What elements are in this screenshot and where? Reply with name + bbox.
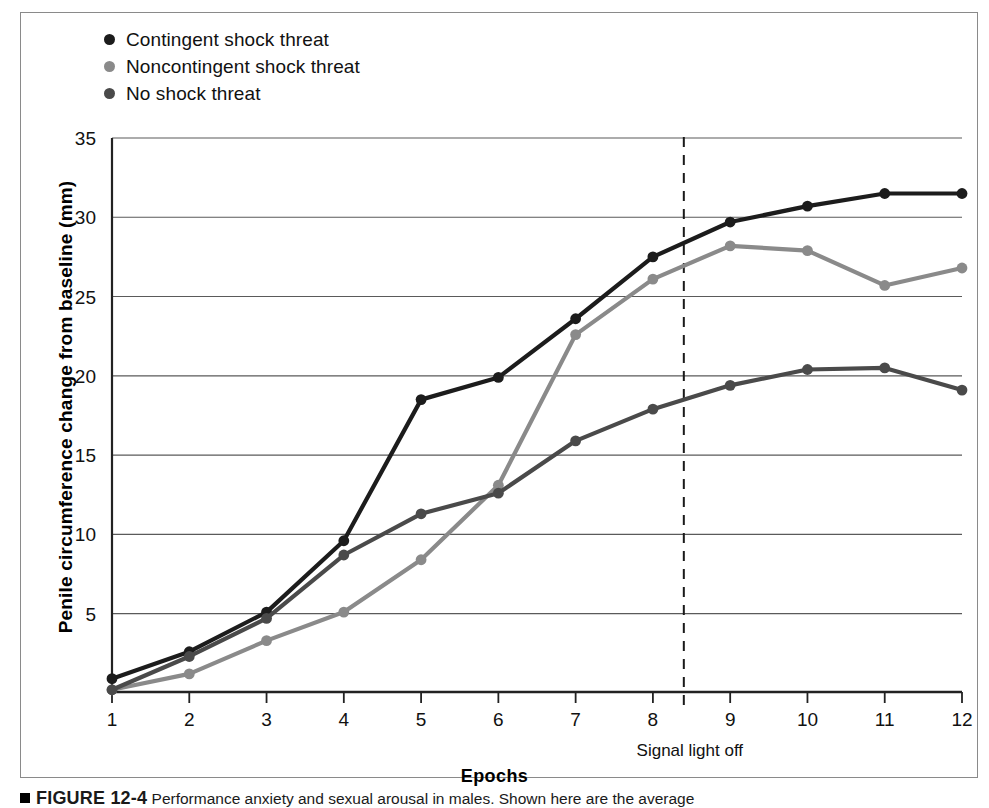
x-tick-label: 7 bbox=[570, 709, 581, 730]
data-point bbox=[802, 364, 813, 375]
data-point bbox=[261, 613, 272, 624]
data-point bbox=[725, 380, 736, 391]
data-series-layer bbox=[107, 188, 968, 695]
data-point bbox=[338, 550, 349, 561]
y-tick-label: 30 bbox=[75, 207, 96, 228]
data-point bbox=[338, 535, 349, 546]
data-point bbox=[416, 508, 427, 519]
caption-body-text: Performance anxiety and sexual arousal i… bbox=[152, 790, 695, 807]
annotation-layer: Signal light off bbox=[637, 137, 744, 760]
data-point bbox=[648, 404, 659, 415]
data-point bbox=[570, 435, 581, 446]
x-tick-label: 4 bbox=[339, 709, 350, 730]
data-point bbox=[570, 313, 581, 324]
x-tick-label: 6 bbox=[493, 709, 504, 730]
x-tick-label: 10 bbox=[797, 709, 818, 730]
data-point bbox=[957, 188, 968, 199]
data-point bbox=[493, 372, 504, 383]
data-point bbox=[879, 363, 890, 374]
data-point bbox=[802, 245, 813, 256]
caption-figure-number: FIGURE 12-4 bbox=[36, 789, 147, 808]
data-point bbox=[493, 488, 504, 499]
annotation-label: Signal light off bbox=[637, 741, 744, 760]
data-point bbox=[184, 669, 195, 680]
x-axis-ticks: 123456789101112 bbox=[107, 692, 973, 730]
data-point bbox=[648, 252, 659, 263]
plot-area: 5101520253035 123456789101112 Signal lig… bbox=[0, 0, 989, 808]
data-point bbox=[416, 554, 427, 565]
data-point bbox=[957, 263, 968, 274]
data-point bbox=[184, 651, 195, 662]
y-axis-ticks: 5101520253035 bbox=[75, 128, 96, 625]
line-chart-svg: 5101520253035 123456789101112 Signal lig… bbox=[0, 0, 989, 808]
grid-lines bbox=[112, 138, 962, 614]
x-tick-label: 12 bbox=[951, 709, 972, 730]
data-point bbox=[879, 280, 890, 291]
figure-caption: FIGURE 12-4 Performance anxiety and sexu… bbox=[20, 789, 978, 808]
data-point bbox=[957, 385, 968, 396]
caption-square-bullet-icon bbox=[20, 793, 30, 803]
data-point bbox=[725, 240, 736, 251]
x-tick-label: 1 bbox=[107, 709, 118, 730]
figure-container: Contingent shock threat Noncontingent sh… bbox=[0, 0, 989, 808]
y-tick-label: 25 bbox=[75, 287, 96, 308]
x-tick-label: 5 bbox=[416, 709, 427, 730]
x-tick-label: 9 bbox=[725, 709, 736, 730]
data-point bbox=[107, 684, 118, 695]
x-tick-label: 3 bbox=[261, 709, 272, 730]
data-point bbox=[261, 635, 272, 646]
series-line bbox=[112, 193, 962, 678]
x-axis-title: Epochs bbox=[0, 766, 989, 787]
x-tick-label: 8 bbox=[648, 709, 659, 730]
y-tick-label: 10 bbox=[75, 524, 96, 545]
series-line bbox=[112, 368, 962, 690]
y-tick-label: 15 bbox=[75, 445, 96, 466]
x-tick-label: 11 bbox=[875, 709, 895, 730]
axis-lines bbox=[112, 138, 962, 692]
data-point bbox=[338, 607, 349, 618]
data-point bbox=[802, 201, 813, 212]
data-point bbox=[570, 329, 581, 340]
y-tick-label: 20 bbox=[75, 366, 96, 387]
data-point bbox=[648, 274, 659, 285]
data-point bbox=[107, 673, 118, 684]
y-tick-label: 35 bbox=[75, 128, 96, 149]
y-tick-label: 5 bbox=[85, 604, 96, 625]
data-point bbox=[879, 188, 890, 199]
x-tick-label: 2 bbox=[184, 709, 195, 730]
data-point bbox=[725, 217, 736, 228]
y-axis-title: Penile circumference change from baselin… bbox=[55, 127, 77, 687]
data-point bbox=[416, 394, 427, 405]
